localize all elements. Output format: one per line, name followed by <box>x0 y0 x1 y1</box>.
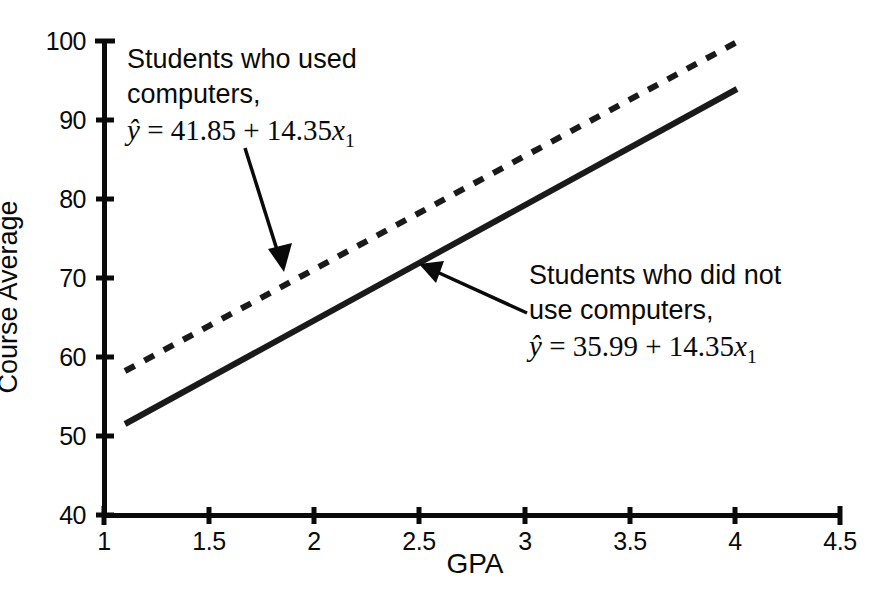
annotation-not-used-computers: Students who did not use computers, ŷ = … <box>529 258 781 375</box>
y-tick-label-100: 100 <box>26 27 86 56</box>
equation-body: = 41.85 + 14.35 <box>140 114 332 146</box>
y-tick-label-50: 50 <box>26 422 86 451</box>
equation-x-var: x <box>734 330 747 362</box>
x-tick-label-3: 3 <box>518 527 531 556</box>
equation-x-var: x <box>332 114 345 146</box>
x-tick-label-3-5: 3.5 <box>613 527 646 556</box>
equation-body: = 35.99 + 14.35 <box>542 330 734 362</box>
annotation-notused-line1: Students who did not <box>529 258 781 293</box>
x-tick-label-4-5: 4.5 <box>823 527 856 556</box>
annotation-arrow-not-used-computers <box>419 261 527 313</box>
x-axis-title: GPA <box>446 548 503 580</box>
y-tick-label-60: 60 <box>26 343 86 372</box>
annotation-used-equation: ŷ = 41.85 + 14.35x1 <box>127 112 357 159</box>
annotation-used-line1: Students who used <box>127 42 357 77</box>
chart-figure: 100 90 80 70 60 50 40 1 1.5 2 2.5 3 3.5 … <box>0 0 873 594</box>
y-tick-label-70: 70 <box>26 264 86 293</box>
y-tick-label-90: 90 <box>26 106 86 135</box>
annotation-used-computers: Students who used computers, ŷ = 41.85 +… <box>127 42 357 159</box>
x-tick-label-1-5: 1.5 <box>192 527 225 556</box>
annotation-notused-line2: use computers, <box>529 293 781 328</box>
x-tick-label-2-5: 2.5 <box>402 527 435 556</box>
x-tick-label-4: 4 <box>728 527 741 556</box>
equation-y-hat: ŷ <box>529 330 542 362</box>
equation-y-hat: ŷ <box>127 114 140 146</box>
y-axis-title: Course Average <box>0 200 24 393</box>
annotation-notused-equation: ŷ = 35.99 + 14.35x1 <box>529 328 781 375</box>
equation-x-subscript: 1 <box>747 345 757 367</box>
y-tick-label-80: 80 <box>26 185 86 214</box>
annotation-used-line2: computers, <box>127 77 357 112</box>
x-tick-label-1: 1 <box>97 527 110 556</box>
equation-x-subscript: 1 <box>345 129 355 151</box>
y-tick-label-40: 40 <box>26 501 86 530</box>
annotation-arrow-used-computers <box>245 148 292 272</box>
x-tick-label-2: 2 <box>307 527 320 556</box>
